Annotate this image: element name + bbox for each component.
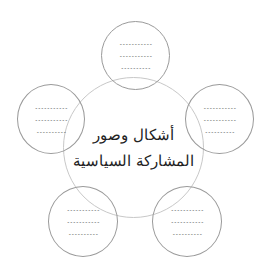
- placeholder-line: ----------: [120, 63, 150, 72]
- placeholder-line: ----------: [36, 127, 66, 136]
- satellite-circle-right: ----------- ----------- ----------: [185, 84, 254, 154]
- satellite-circle-bottom-right: ----------- ----------- ----------: [152, 186, 222, 257]
- satellite-placeholder-lines: ----------- ----------- ----------: [153, 187, 221, 256]
- placeholder-line: -----------: [119, 39, 152, 48]
- placeholder-line: -----------: [170, 205, 203, 214]
- center-title-line-1: أشكال وصور: [93, 125, 174, 145]
- placeholder-line: -----------: [170, 217, 203, 226]
- satellite-circle-bottom-left: ----------- ----------- ----------: [48, 186, 118, 257]
- placeholder-line: -----------: [34, 115, 67, 124]
- placeholder-line: -----------: [66, 217, 99, 226]
- placeholder-line: ----------: [172, 229, 202, 238]
- placeholder-line: -----------: [203, 115, 236, 124]
- satellite-placeholder-lines: ----------- ----------- ----------: [186, 85, 253, 153]
- placeholder-line: -----------: [66, 205, 99, 214]
- satellite-placeholder-lines: ----------- ----------- ----------: [102, 22, 169, 89]
- center-title-line-2: المشاركة السياسية: [73, 151, 194, 171]
- satellite-placeholder-lines: ----------- ----------- ----------: [18, 85, 84, 153]
- mind-map-diagram: أشكال وصور المشاركة السياسية -----------…: [0, 0, 268, 274]
- placeholder-line: ----------: [204, 127, 234, 136]
- placeholder-line: ----------: [68, 229, 98, 238]
- placeholder-line: -----------: [34, 103, 67, 112]
- satellite-placeholder-lines: ----------- ----------- ----------: [49, 187, 117, 256]
- satellite-circle-top: ----------- ----------- ----------: [101, 21, 170, 90]
- placeholder-line: -----------: [119, 51, 152, 60]
- placeholder-line: -----------: [203, 103, 236, 112]
- satellite-circle-left: ----------- ----------- ----------: [17, 84, 85, 154]
